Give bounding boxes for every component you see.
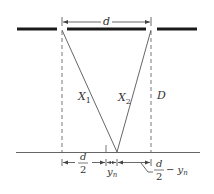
svg-text:2: 2	[156, 171, 162, 182]
svg-text:d: d	[80, 151, 86, 162]
label-x2: X2	[117, 91, 131, 106]
svg-text:2: 2	[80, 164, 86, 175]
slit-projections	[62, 31, 151, 152]
svg-text:− yn: − yn	[166, 164, 188, 177]
label-d: d	[103, 15, 110, 28]
label-x1: X1	[77, 90, 91, 105]
barrier-left	[17, 28, 57, 31]
label-D: D	[156, 89, 166, 102]
ray-paths	[62, 30, 151, 152]
label-y-n: yn	[106, 166, 118, 179]
label-half-d-minus-y-n: d 2 − yn	[154, 158, 188, 182]
double-slit-diagram: d X1 X2 D d	[0, 0, 214, 194]
barrier-right	[157, 28, 197, 31]
path-x1	[62, 30, 117, 152]
svg-text:d: d	[156, 158, 162, 169]
label-half-d: d 2	[78, 151, 88, 175]
